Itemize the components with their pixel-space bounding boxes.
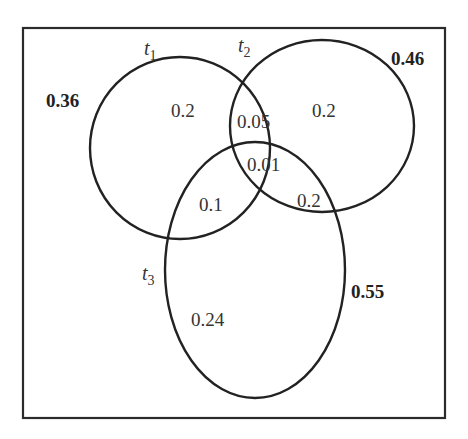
region-t1-only: 0.2 — [171, 100, 195, 121]
set-t3-total: 0.55 — [351, 281, 384, 302]
universe-frame — [23, 28, 445, 418]
set-t3-ellipse — [165, 142, 345, 398]
set-t1-total: 0.36 — [46, 90, 79, 111]
set-t1-label: t1 — [144, 37, 157, 63]
set-t1-ellipse — [90, 57, 270, 239]
set-t3-label: t3 — [142, 262, 155, 288]
region-t1-t3: 0.1 — [199, 194, 223, 215]
set-t2-label: t2 — [238, 34, 251, 60]
set-t2-total: 0.46 — [391, 48, 424, 69]
region-t3-only: 0.24 — [191, 309, 225, 330]
region-t2-only: 0.2 — [312, 100, 336, 121]
region-t2-t3: 0.2 — [297, 190, 321, 211]
region-t1-t2: 0.05 — [237, 111, 270, 132]
region-t1-t2-t3: 0.01 — [247, 154, 280, 175]
venn-diagram: t1 t2 t3 0.36 0.46 0.55 0.2 0.2 0.05 0.0… — [0, 0, 468, 439]
